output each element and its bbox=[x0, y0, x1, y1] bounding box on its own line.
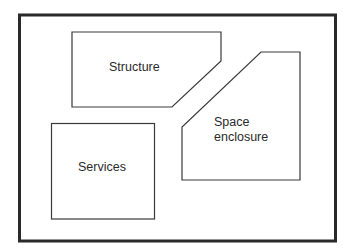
outer-frame bbox=[20, 15, 336, 241]
space-enclosure-label-line2: enclosure bbox=[214, 130, 268, 145]
services-label: Services bbox=[78, 160, 126, 175]
structure-label: Structure bbox=[109, 60, 160, 75]
space-enclosure-label-line1: Space bbox=[214, 115, 249, 130]
diagram-svg bbox=[0, 0, 353, 251]
